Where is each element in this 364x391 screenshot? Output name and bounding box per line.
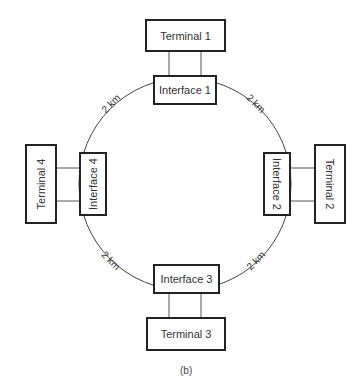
interface-3: Interface 3 bbox=[153, 264, 220, 294]
interface-1-label: Interface 1 bbox=[159, 84, 211, 96]
terminal-4-label: Terminal 4 bbox=[35, 159, 47, 210]
interface-1: Interface 1 bbox=[153, 75, 217, 105]
terminal-4: Terminal 4 bbox=[25, 144, 57, 224]
terminal-3: Terminal 3 bbox=[146, 317, 226, 351]
terminal-2-label: Terminal 2 bbox=[324, 159, 336, 210]
interface-3-label: Interface 3 bbox=[161, 273, 213, 285]
interface-2-label: Interface 2 bbox=[271, 158, 283, 210]
interface-4-label: Interface 4 bbox=[87, 158, 99, 210]
interface-4: Interface 4 bbox=[79, 152, 107, 216]
figure-caption: (b) bbox=[180, 365, 192, 376]
terminal-3-label: Terminal 3 bbox=[161, 328, 212, 340]
interface-2: Interface 2 bbox=[263, 152, 291, 216]
terminal-1: Terminal 1 bbox=[145, 19, 226, 52]
terminal-1-label: Terminal 1 bbox=[160, 30, 211, 42]
terminal-2: Terminal 2 bbox=[314, 144, 346, 224]
